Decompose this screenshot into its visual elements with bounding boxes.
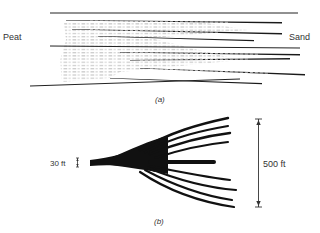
thickness-label: 30 ft <box>50 159 66 168</box>
caption-b: (b) <box>154 217 164 226</box>
sand-branches <box>140 118 236 207</box>
sand-label: Sand <box>289 32 310 42</box>
thickness-scale-marker <box>76 158 79 167</box>
bottom-boundary-line <box>30 79 240 86</box>
diagram-a: Peat Sand (a) <box>3 13 310 104</box>
caption-a: (a) <box>155 95 165 104</box>
height-label: 500 ft <box>263 159 286 169</box>
peat-label: Peat <box>3 32 22 42</box>
height-scale-arrow <box>255 119 262 207</box>
diagram-b: 30 ft 500 ft (b) <box>50 118 286 226</box>
figure-canvas: Peat Sand (a) 30 ft <box>0 0 320 233</box>
